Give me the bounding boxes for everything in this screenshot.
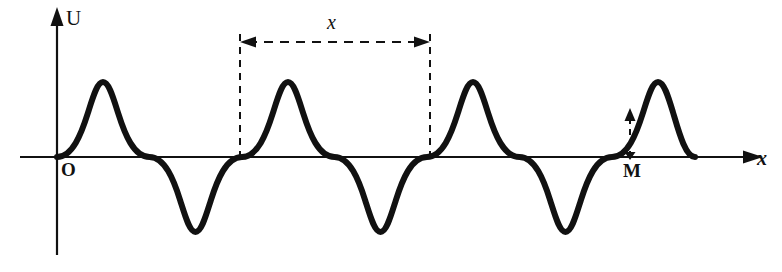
wavelength-right-arrowhead	[414, 37, 430, 48]
origin-label: O	[61, 160, 76, 179]
point-m-label: M	[623, 161, 641, 180]
point-m-arrowhead-up	[625, 108, 636, 121]
x-axis-label: x	[757, 148, 767, 168]
u-axis-arrowhead	[51, 7, 64, 26]
u-axis-group	[51, 7, 64, 255]
u-axis-label: U	[66, 8, 81, 29]
wave-diagram-figure: U O x x M	[0, 0, 782, 272]
wavelength-left-arrowhead	[240, 37, 256, 48]
x-axis-group	[20, 151, 763, 164]
wave-diagram-svg	[0, 0, 782, 272]
wavelength-dimension-label: x	[327, 12, 336, 32]
